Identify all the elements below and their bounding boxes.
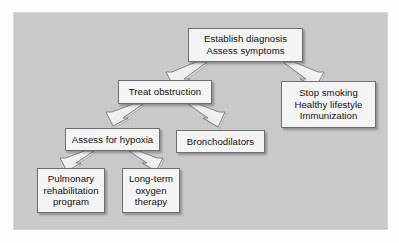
node-bronchodilators-line-1: Bronchodilators [187, 136, 254, 148]
node-pulmonary-line-1: Pulmonary [48, 173, 94, 185]
node-pulmonary-line-2: rehabilitation [43, 185, 98, 197]
node-treat-line-1: Treat obstruction [129, 86, 201, 98]
node-prevention-line-2: Healthy lifestyle [294, 99, 362, 111]
figure-canvas: Establish diagnosis Assess symptoms Trea… [0, 0, 399, 243]
node-assess-for-hypoxia: Assess for hypoxia [65, 128, 160, 151]
node-treat-obstruction: Treat obstruction [118, 80, 212, 104]
node-long-term-oxygen-therapy: Long-term oxygen therapy [122, 168, 180, 213]
node-bronchodilators: Bronchodilators [176, 130, 265, 153]
node-establish-line-2: Assess symptoms [206, 45, 284, 57]
node-oxygen-line-3: therapy [135, 196, 167, 208]
node-establish-line-1: Establish diagnosis [204, 33, 287, 45]
node-pulmonary-line-3: program [53, 196, 89, 208]
node-prevention-line-1: Stop smoking [299, 87, 358, 99]
node-oxygen-line-1: Long-term [129, 173, 173, 185]
node-prevention-line-3: Immunization [300, 110, 358, 122]
node-establish-diagnosis: Establish diagnosis Assess symptoms [188, 28, 303, 62]
node-prevention: Stop smoking Healthy lifestyle Immunizat… [281, 81, 376, 128]
node-oxygen-line-2: oxygen [135, 185, 166, 197]
node-hypoxia-line-1: Assess for hypoxia [72, 134, 153, 146]
node-pulmonary-rehabilitation: Pulmonary rehabilitation program [37, 168, 105, 213]
